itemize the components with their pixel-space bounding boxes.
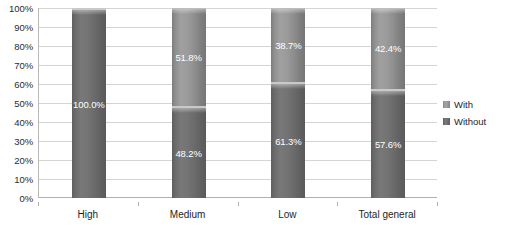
- x-axis-tick-label: High: [78, 209, 99, 220]
- bar-group[interactable]: 48.2%51.8%: [139, 8, 239, 198]
- legend-swatch-without-icon: [443, 118, 450, 125]
- x-axis-tick-mark: [38, 202, 39, 206]
- bar-value-label: 61.3%: [271, 136, 305, 147]
- cylinder-top-highlight: [172, 108, 206, 113]
- chart-legend: WithWithout: [443, 98, 507, 132]
- bar-value-label: 100.0%: [72, 99, 106, 110]
- x-axis-tick-label: Low: [278, 209, 296, 220]
- legend-label: With: [454, 99, 473, 110]
- x-axis-tick-mark: [238, 202, 239, 206]
- legend-item[interactable]: Without: [443, 115, 507, 127]
- x-axis-tick-mark: [437, 202, 438, 206]
- bar-value-label: 38.7%: [271, 40, 305, 51]
- bars-layer: 100.0%48.2%51.8%61.3%38.7%57.6%42.4%: [39, 8, 437, 198]
- bar-value-label: 51.8%: [172, 52, 206, 63]
- x-axis-tick-mark: [337, 202, 338, 206]
- y-axis-tick-label: 10%: [14, 174, 33, 185]
- y-axis-tick-label: 30%: [14, 136, 33, 147]
- y-axis-tick-label: 50%: [14, 98, 33, 109]
- y-axis-tick-label: 40%: [14, 117, 33, 128]
- bar-value-label: 42.4%: [371, 43, 405, 54]
- bar-stack[interactable]: 48.2%51.8%: [172, 8, 206, 198]
- legend-item[interactable]: With: [443, 98, 507, 110]
- legend-label: Without: [454, 116, 486, 127]
- bar-segment-without[interactable]: 48.2%: [172, 106, 206, 198]
- y-axis-tick-label: 70%: [14, 60, 33, 71]
- cylinder-top-highlight: [271, 9, 305, 14]
- cylinder-top-highlight: [172, 9, 206, 14]
- bar-segment-with[interactable]: 38.7%: [271, 8, 305, 82]
- y-axis-tick-label: 20%: [14, 155, 33, 166]
- y-axis-tick-label: 90%: [14, 22, 33, 33]
- cylinder-top-highlight: [72, 10, 106, 15]
- y-axis: 0%10%20%30%40%50%60%70%80%90%100%: [0, 8, 36, 198]
- bar-group[interactable]: 100.0%: [39, 8, 139, 198]
- bar-group[interactable]: 57.6%42.4%: [338, 8, 438, 198]
- stacked-bar-chart: 0%10%20%30%40%50%60%70%80%90%100% 100.0%…: [0, 0, 507, 243]
- y-axis-tick-label: 80%: [14, 41, 33, 52]
- bar-segment-without[interactable]: 57.6%: [371, 89, 405, 198]
- bar-group[interactable]: 61.3%38.7%: [239, 8, 339, 198]
- bar-value-label: 48.2%: [172, 148, 206, 159]
- cylinder-top-highlight: [371, 9, 405, 14]
- bar-stack[interactable]: 61.3%38.7%: [271, 8, 305, 198]
- x-axis-tick-label: Total general: [358, 209, 415, 220]
- y-axis-tick-label: 0%: [19, 193, 33, 204]
- cylinder-top-highlight: [271, 84, 305, 89]
- bar-segment-with[interactable]: 42.4%: [371, 8, 405, 89]
- legend-swatch-with-icon: [443, 101, 450, 108]
- x-axis-tick-mark: [138, 202, 139, 206]
- bar-segment-without[interactable]: 100.0%: [72, 8, 106, 198]
- bar-stack[interactable]: 57.6%42.4%: [371, 8, 405, 198]
- y-axis-tick-label: 60%: [14, 79, 33, 90]
- bar-segment-without[interactable]: 61.3%: [271, 82, 305, 198]
- x-axis-tick-label: Medium: [170, 209, 206, 220]
- x-axis: HighMediumLowTotal general: [38, 202, 437, 222]
- bar-value-label: 57.6%: [371, 139, 405, 150]
- bar-segment-with[interactable]: 51.8%: [172, 8, 206, 106]
- bar-stack[interactable]: 100.0%: [72, 8, 106, 198]
- cylinder-top-highlight: [371, 91, 405, 96]
- y-axis-tick-label: 100%: [9, 3, 33, 14]
- plot-area: 100.0%48.2%51.8%61.3%38.7%57.6%42.4%: [38, 8, 437, 198]
